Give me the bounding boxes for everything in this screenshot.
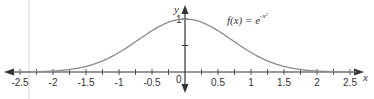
x-tick-label: -2 [49,77,58,88]
x-axis-label: x [362,71,368,83]
x-tick-label: 1.5 [277,77,291,88]
x-tick-label: 1 [248,77,254,88]
function-label-exponent-power: 2 [266,12,269,17]
y-axis: y 1 0 [173,3,189,93]
function-label-main: f(x) = e [227,14,260,27]
x-tick-label: 2 [314,77,320,88]
x-tick-label: -1.5 [77,77,95,88]
origin-label: 0 [176,74,182,85]
y-axis-down-arrow-icon [182,84,189,93]
x-tick-label: -0.5 [143,77,161,88]
gaussian-chart: -2.5-2-1.5-1-0.50.511.522.5 x y 1 0 f(x)… [0,0,374,99]
function-label: f(x) = e-x2 [227,12,269,27]
x-tick-label: 2.5 [343,77,357,88]
y-axis-up-arrow-icon [182,5,189,14]
x-axis-left-arrow-icon [4,69,14,76]
x-tick-label: 0.5 [211,77,225,88]
x-tick-label: -2.5 [11,77,29,88]
x-tick-label: -1 [115,77,124,88]
